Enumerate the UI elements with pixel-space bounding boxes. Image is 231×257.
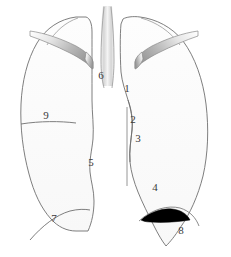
- label-1: 1: [124, 82, 130, 94]
- left-lung-field: [21, 17, 94, 231]
- label-8: 8: [178, 224, 184, 236]
- label-2: 2: [130, 113, 136, 125]
- label-3: 3: [135, 132, 141, 144]
- diagram-canvas: 1 2 3 4 5 6 7 8 9: [0, 0, 231, 257]
- label-4: 4: [152, 181, 158, 193]
- chest-xray-diagram: 1 2 3 4 5 6 7 8 9: [0, 0, 231, 257]
- label-9: 9: [43, 109, 49, 121]
- label-5: 5: [88, 156, 94, 168]
- label-6: 6: [98, 69, 104, 81]
- label-7: 7: [51, 212, 57, 224]
